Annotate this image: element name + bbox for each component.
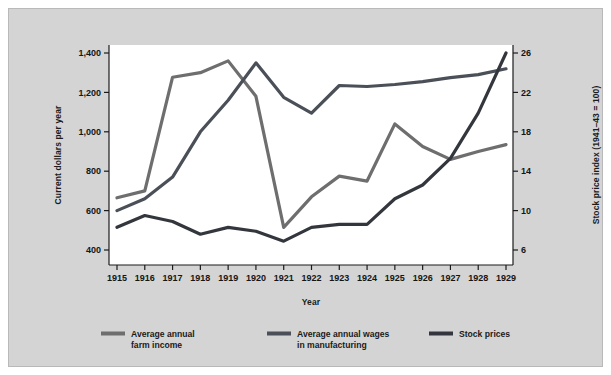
x-axis-ticks: 1915191619171918191919201921192219231924… — [107, 265, 516, 283]
y-axis-left-tick-label: 1,200 — [78, 88, 101, 98]
x-axis-tick-label: 1922 — [301, 273, 321, 283]
legend-label-1: Average annual — [131, 329, 195, 339]
chart-legend: Average annualfarm incomeAverage annual … — [101, 329, 510, 350]
line-chart-svg: 4006008001,0001,2001,400 61014182226 191… — [9, 9, 604, 368]
legend-swatch-3 — [429, 332, 453, 336]
y-axis-right-ticks: 61014182226 — [513, 48, 531, 255]
x-axis-tick-label: 1921 — [274, 273, 294, 283]
y-axis-left-title: Current dollars per year — [53, 105, 63, 204]
y-axis-left-tick-label: 800 — [86, 166, 101, 176]
legend-swatch-2 — [267, 332, 291, 336]
y-axis-right-tick-label: 22 — [521, 88, 531, 98]
x-axis-tick-label: 1920 — [246, 273, 266, 283]
legend-label-1-line2: farm income — [131, 340, 182, 350]
legend-label-3: Stock prices — [459, 329, 510, 339]
x-axis-tick-label: 1916 — [135, 273, 155, 283]
x-axis-tick-label: 1919 — [218, 273, 238, 283]
x-axis-tick-label: 1917 — [163, 273, 183, 283]
legend-label-2-line2: in manufacturing — [297, 340, 367, 350]
x-axis-tick-label: 1926 — [413, 273, 433, 283]
y-axis-right-tick-label: 6 — [521, 245, 526, 255]
y-axis-right-title: Stock price index (1941–43 = 100) — [591, 86, 601, 225]
y-axis-right-tick-label: 26 — [521, 48, 531, 58]
x-axis-tick-label: 1918 — [190, 273, 210, 283]
y-axis-left-tick-label: 600 — [86, 206, 101, 216]
y-axis-left-tick-label: 400 — [86, 245, 101, 255]
x-axis-tick-label: 1927 — [440, 273, 460, 283]
legend-label-2: Average annual wages — [297, 329, 390, 339]
y-axis-right-tick-label: 10 — [521, 206, 531, 216]
x-axis-title: Year — [302, 297, 321, 307]
x-axis-tick-label: 1924 — [357, 273, 377, 283]
y-axis-left-ticks: 4006008001,0001,2001,400 — [78, 48, 109, 255]
y-axis-left-tick-label: 1,000 — [78, 127, 101, 137]
x-axis-tick-label: 1923 — [329, 273, 349, 283]
y-axis-right-tick-label: 18 — [521, 127, 531, 137]
y-axis-right-tick-label: 14 — [521, 166, 531, 176]
y-axis-left-tick-label: 1,400 — [78, 48, 101, 58]
x-axis-tick-label: 1915 — [107, 273, 127, 283]
x-axis-tick-label: 1925 — [385, 273, 405, 283]
chart-figure: 4006008001,0001,2001,400 61014182226 191… — [8, 8, 603, 367]
legend-swatch-1 — [101, 332, 125, 336]
x-axis-tick-label: 1928 — [468, 273, 488, 283]
chart-plot-area: 4006008001,0001,2001,400 61014182226 191… — [9, 9, 604, 368]
x-axis-tick-label: 1929 — [496, 273, 516, 283]
